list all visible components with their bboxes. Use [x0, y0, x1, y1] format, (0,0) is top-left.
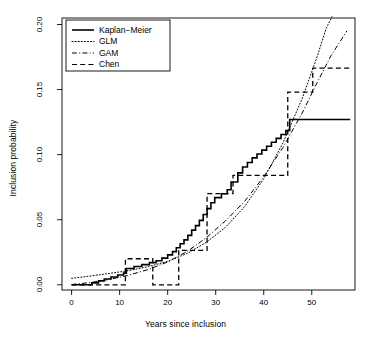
x-tick-label: 0 — [57, 298, 87, 307]
series-kaplan-meier — [72, 120, 351, 285]
y-tick-label: 0.15 — [35, 74, 44, 104]
legend-label-gam: GAM — [99, 48, 118, 58]
x-tick-label: 40 — [249, 298, 279, 307]
chart-figure: Inclusion probability Years since inclus… — [0, 0, 371, 346]
y-axis-title: Inclusion probability — [8, 98, 18, 218]
x-tick-label: 50 — [297, 298, 327, 307]
y-tick-label: 0.10 — [35, 139, 44, 169]
y-tick-label: 0.00 — [35, 269, 44, 299]
legend-label-glm: GLM — [99, 36, 117, 46]
series-chen — [72, 68, 351, 285]
y-tick-label: 0.05 — [35, 204, 44, 234]
x-axis-title: Years since inclusion — [0, 319, 371, 329]
y-tick-label: 0.20 — [35, 9, 44, 39]
x-tick-label: 10 — [105, 298, 135, 307]
legend-label-chen: Chen — [99, 59, 119, 69]
x-tick-label: 30 — [201, 298, 231, 307]
x-tick-label: 20 — [153, 298, 183, 307]
chart-canvas — [0, 0, 371, 346]
legend-label-kaplan-meier: Kaplan−Meier — [99, 25, 152, 35]
